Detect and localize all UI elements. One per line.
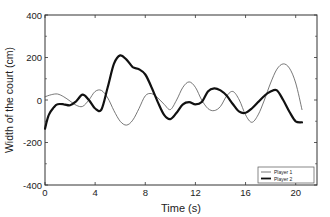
chart-container: -400-2000200400 048121620 Time (s) Width… [0,0,330,217]
legend-label-player-2: Player 2 [274,176,293,182]
y-tick-label: -400 [23,180,42,191]
y-tick-label: 0 [37,95,42,106]
y-tick-label: 200 [26,52,42,63]
x-tick-label: 16 [240,187,251,198]
x-tick-label: 20 [290,187,301,198]
legend-label-player-1: Player 1 [274,169,293,175]
x-tick-label: 12 [190,187,201,198]
y-axis-ticks: -400-2000200400 [23,10,317,191]
plot-frame [45,15,317,185]
legend: Player 1 Player 2 [258,167,314,183]
x-tick-label: 0 [42,187,47,198]
y-tick-label: -200 [23,137,42,148]
x-tick-label: 8 [143,187,148,198]
y-tick-label: 400 [26,10,42,21]
series-lines [45,55,302,128]
y-axis-label: Width of the court (cm) [3,47,15,153]
x-tick-label: 4 [92,187,97,198]
line-chart: -400-2000200400 048121620 Time (s) Width… [0,0,330,217]
series-line-player-2 [45,55,302,128]
x-axis-label: Time (s) [161,202,201,214]
